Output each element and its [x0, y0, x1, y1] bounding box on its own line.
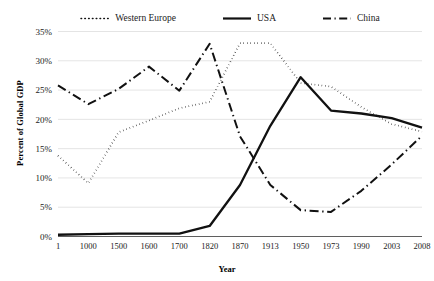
y-tick-label: 20%: [36, 115, 53, 125]
x-tick-label: 1500: [110, 241, 127, 251]
series-line-solid: [58, 77, 422, 235]
gridlines-group: [58, 32, 422, 237]
x-tick-label: 1600: [141, 241, 158, 251]
x-tick-label: 2003: [383, 241, 400, 251]
x-tick-label: 1950: [292, 241, 309, 251]
x-tick-label: 1870: [232, 241, 249, 251]
x-tick-labels-group: 1100015001600170018201870191319501973199…: [56, 241, 431, 251]
x-tick-label: 1990: [353, 241, 370, 251]
x-tick-label: 1: [56, 241, 60, 251]
y-axis-title: Percent of Global GDP: [15, 58, 25, 188]
x-tick-label: 1973: [323, 241, 340, 251]
y-tick-label: 0%: [40, 232, 53, 242]
y-tick-label: 10%: [36, 173, 53, 183]
y-tick-label: 15%: [36, 144, 53, 154]
x-tick-label: 1913: [262, 241, 279, 251]
x-tick-label: 1000: [80, 241, 97, 251]
y-tick-labels-group: 0%5%10%15%20%25%30%35%: [36, 27, 53, 242]
x-tick-label: 1820: [201, 241, 218, 251]
y-tick-label: 25%: [36, 85, 53, 95]
x-axis-title: Year: [10, 264, 434, 274]
y-tick-label: 5%: [40, 202, 53, 212]
chart-container: Western Europe USA China 0%5%10%15%20%25…: [0, 0, 434, 281]
x-tick-label: 2008: [414, 241, 431, 251]
series-line-dotted: [58, 43, 422, 183]
plot-area: 0%5%10%15%20%25%30%35% 11000150016001700…: [0, 0, 434, 281]
series-lines-group: [58, 43, 422, 235]
chart-svg: 0%5%10%15%20%25%30%35% 11000150016001700…: [0, 0, 434, 281]
y-tick-label: 30%: [36, 56, 53, 66]
y-tick-label: 35%: [36, 27, 53, 37]
x-tick-label: 1700: [171, 241, 188, 251]
